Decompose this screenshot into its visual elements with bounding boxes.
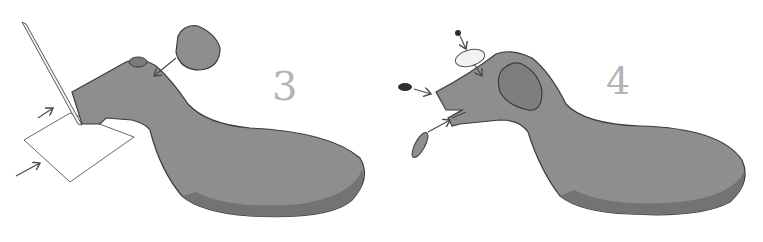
illustration-canvas: 3 4: [0, 0, 763, 242]
illustration-svg: [0, 0, 763, 242]
tongue: [409, 130, 431, 159]
arrow-pupil: [460, 36, 466, 49]
eye-pupil: [455, 30, 461, 36]
step-3-group: [16, 22, 365, 217]
step-4-group: [398, 30, 745, 215]
arrow-lower: [16, 163, 40, 176]
arrow-upper: [38, 108, 53, 118]
step-number-4: 4: [606, 62, 630, 100]
arrow-tongue: [428, 120, 450, 132]
nose: [398, 83, 412, 91]
knife-blade: [22, 22, 82, 125]
arrow-nose: [414, 89, 431, 94]
ear-nub: [129, 57, 147, 67]
step-number-3: 3: [272, 66, 297, 106]
clay-body-step4: [436, 52, 745, 215]
clay-ball-ear: [176, 26, 220, 70]
